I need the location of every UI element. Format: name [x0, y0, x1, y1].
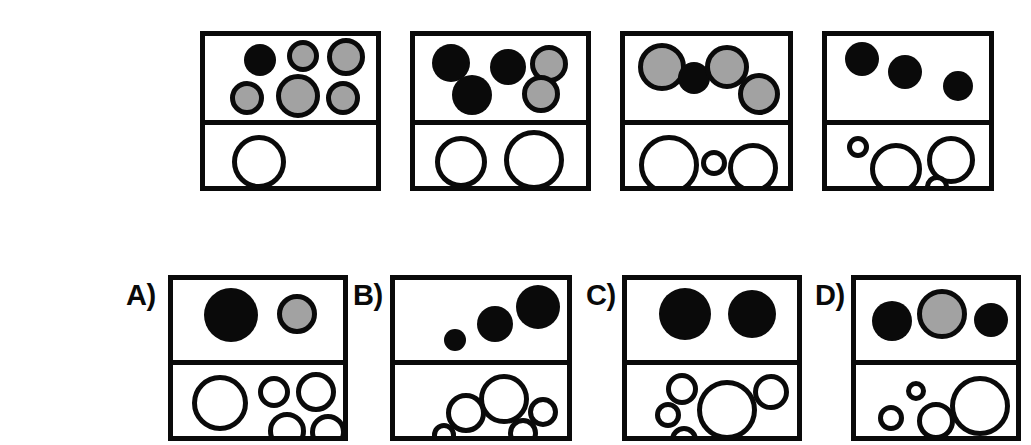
sequence-panel-1-top-circle-gray: [230, 81, 264, 115]
sequence-panel-3-top-circle-gray: [738, 73, 780, 115]
option-b-bottom-cell: [395, 365, 567, 436]
sequence-panel-4-top-circle-black: [845, 42, 879, 76]
option-d[interactable]: [851, 275, 1021, 441]
sequence-panel-2-top-cell: [415, 36, 586, 120]
sequence-panel-2-bottom-cell: [415, 125, 586, 186]
option-c-top-cell: [627, 280, 797, 360]
option-a-bottom-circle-white: [192, 375, 248, 431]
sequence-panel-1-bottom-circle-white: [232, 135, 286, 186]
option-a-top-circle-gray: [277, 294, 317, 334]
sequence-panel-4-top-cell: [827, 36, 989, 120]
option-d-bottom-cell: [856, 365, 1016, 436]
option-c-top-circle-black: [659, 288, 711, 340]
option-d-top-circle-black: [974, 303, 1008, 337]
sequence-panel-4-bottom-cell: [827, 125, 989, 186]
option-d-top-cell: [856, 280, 1016, 360]
option-d-bottom-circle-white: [906, 381, 926, 401]
option-c-bottom-cell: [627, 365, 797, 436]
option-d-bottom-circle-white: [950, 376, 1010, 436]
option-a-top-circle-black: [204, 288, 258, 342]
sequence-panel-2-top-circle-black: [490, 49, 526, 85]
sequence-panel-1-top-circle-gray: [276, 74, 320, 118]
sequence-panel-3-bottom-circle-white: [701, 150, 727, 176]
option-a[interactable]: [168, 275, 348, 441]
sequence-panel-4-bottom-circle-white: [870, 143, 922, 186]
sequence-panel-4-bottom-circle-white: [847, 136, 869, 158]
option-a-bottom-circle-white: [258, 376, 290, 408]
option-a-top-cell: [173, 280, 343, 360]
sequence-panel-2: [410, 31, 591, 191]
sequence-panel-1: [200, 31, 381, 191]
sequence-panel-4: [822, 31, 994, 191]
sequence-panel-3-bottom-circle-white: [728, 143, 778, 186]
sequence-panel-3-bottom-cell: [625, 125, 788, 186]
sequence-panel-2-bottom-circle-white: [504, 130, 564, 186]
option-a-letter: A): [126, 281, 156, 310]
option-a-bottom-cell: [173, 365, 343, 436]
option-c-letter: C): [586, 281, 616, 310]
option-c-bottom-circle-white: [655, 402, 681, 428]
sequence-panel-3-top-cell: [625, 36, 788, 120]
sequence-panel-2-top-circle-gray: [522, 75, 560, 113]
option-b-top-circle-black: [516, 285, 560, 329]
option-b-letter: B): [353, 281, 383, 310]
option-b-bottom-circle-white: [479, 374, 529, 424]
option-c[interactable]: [622, 275, 802, 441]
option-b-top-circle-black: [477, 306, 513, 342]
option-d-top-circle-black: [872, 301, 912, 341]
puzzle-figure: A)B)C)D): [0, 0, 1031, 445]
option-a-bottom-circle-white: [310, 414, 343, 436]
option-d-top-circle-gray: [917, 289, 967, 339]
sequence-panel-3: [620, 31, 793, 191]
option-c-bottom-circle-white: [753, 374, 789, 410]
sequence-panel-2-top-circle-black: [452, 75, 492, 115]
sequence-panel-1-bottom-cell: [205, 125, 376, 186]
sequence-panel-1-top-circle-gray: [287, 40, 319, 72]
sequence-panel-4-top-circle-black: [888, 55, 922, 89]
sequence-panel-2-bottom-circle-white: [435, 136, 487, 186]
sequence-panel-4-top-circle-black: [943, 71, 973, 101]
sequence-panel-1-top-cell: [205, 36, 376, 120]
option-d-bottom-circle-white: [917, 402, 955, 436]
option-d-letter: D): [815, 281, 845, 310]
sequence-panel-3-bottom-circle-white: [639, 135, 699, 186]
option-b-top-circle-black: [444, 329, 466, 351]
sequence-panel-1-top-circle-gray: [327, 38, 365, 76]
sequence-panel-1-top-circle-black: [244, 44, 276, 76]
option-b-top-cell: [395, 280, 567, 360]
option-d-bottom-circle-white: [878, 405, 904, 431]
option-b[interactable]: [390, 275, 572, 441]
option-c-bottom-circle-white: [697, 380, 757, 436]
option-a-bottom-circle-white: [268, 412, 306, 436]
option-a-bottom-circle-white: [296, 372, 336, 412]
option-c-bottom-circle-white: [670, 426, 698, 436]
sequence-panel-1-top-circle-gray: [326, 81, 360, 115]
option-c-bottom-circle-white: [666, 373, 698, 405]
option-c-top-circle-black: [728, 290, 776, 338]
